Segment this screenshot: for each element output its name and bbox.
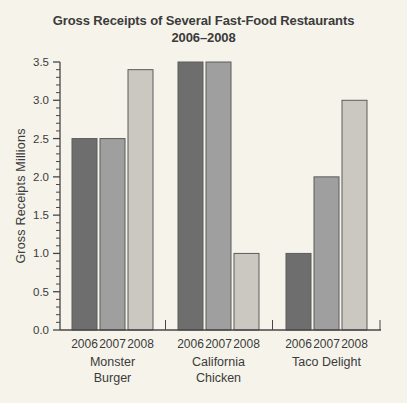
y-tick-label: 3.0	[33, 94, 49, 106]
chart-page: Gross Receipts of Several Fast-Food Rest…	[0, 0, 407, 403]
bar-monster-burger-2008	[128, 70, 153, 330]
group-label: Burger	[94, 371, 132, 385]
y-tick-label: 0.0	[33, 324, 49, 336]
group-label: Taco Delight	[292, 355, 361, 369]
year-label: 2006	[71, 337, 98, 351]
bar-taco-delight-2007	[314, 177, 339, 330]
y-tick-label: 2.5	[33, 133, 49, 145]
group-label: Chicken	[196, 371, 241, 385]
year-label: 2006	[177, 337, 204, 351]
year-label: 2008	[127, 337, 154, 351]
year-label: 2008	[233, 337, 260, 351]
bar-monster-burger-2007	[100, 139, 125, 330]
y-tick-label: 2.0	[33, 171, 49, 183]
year-label: 2007	[99, 337, 126, 351]
bar-california-chicken-2007	[206, 62, 231, 330]
bar-taco-delight-2008	[342, 100, 367, 330]
year-label: 2007	[313, 337, 340, 351]
year-label: 2006	[285, 337, 312, 351]
bar-california-chicken-2008	[234, 253, 259, 330]
year-label: 2008	[341, 337, 368, 351]
year-label: 2007	[205, 337, 232, 351]
y-tick-label: 0.5	[33, 286, 49, 298]
bar-california-chicken-2006	[178, 62, 203, 330]
y-tick-label: 1.0	[33, 247, 49, 259]
y-tick-label: 3.5	[33, 56, 49, 68]
group-label: Monster	[90, 355, 135, 369]
group-label: California	[192, 355, 245, 369]
bar-taco-delight-2006	[286, 253, 311, 330]
chart-svg: 0.00.51.01.52.02.53.03.52006200620062007…	[0, 0, 407, 403]
y-tick-label: 1.5	[33, 209, 49, 221]
bar-monster-burger-2006	[72, 139, 97, 330]
